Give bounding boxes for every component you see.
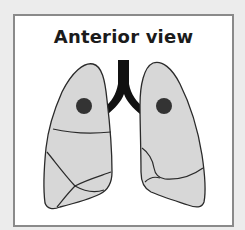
left-lung [140,62,205,207]
right-lung-outline [44,64,112,209]
marker-right-dot [76,98,92,114]
trachea-icon [103,60,145,114]
marker-left-dot [156,98,172,114]
right-lung [44,64,112,209]
left-lung-outline [140,62,205,207]
lungs-diagram [0,0,245,230]
